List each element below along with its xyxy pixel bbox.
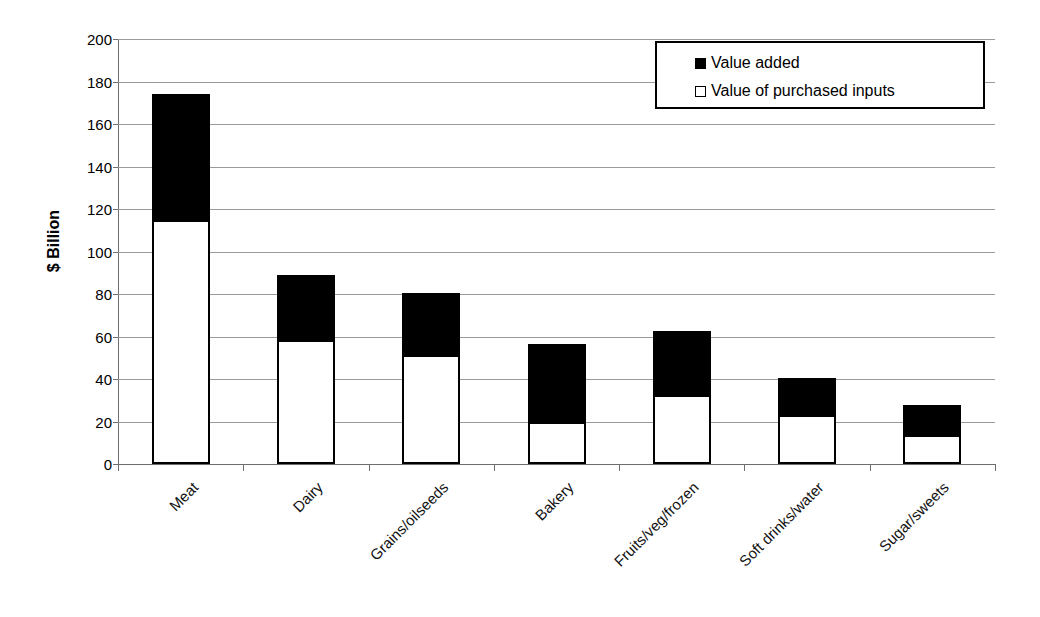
bar-segment-purchased-inputs[interactable] <box>277 340 335 464</box>
x-axis-category-label: Grains/oilseeds <box>366 478 451 563</box>
y-axis-tick-label: 60 <box>54 330 112 345</box>
bar-segment-value-added[interactable] <box>778 378 836 415</box>
x-axis-line <box>118 464 995 465</box>
gridline <box>118 124 995 125</box>
gridline <box>118 209 995 210</box>
x-axis-tickmark <box>243 464 244 471</box>
y-axis-tickmark <box>113 82 118 83</box>
y-axis-tickmark <box>113 252 118 253</box>
bar-segment-purchased-inputs[interactable] <box>778 415 836 464</box>
y-axis-tickmark <box>113 167 118 168</box>
y-axis-tick-label: 20 <box>54 415 112 430</box>
x-axis-category-label: Meat <box>165 478 201 514</box>
x-axis-tickmark <box>619 464 620 471</box>
x-axis-category-label: Sugar/sweets <box>876 478 952 554</box>
legend-item-value-added: Value added <box>695 50 983 76</box>
y-axis-tickmark <box>113 39 118 40</box>
x-axis-category-label: Soft drinks/water <box>736 478 827 569</box>
y-axis-tickmark <box>113 422 118 423</box>
x-axis-tickmark <box>494 464 495 471</box>
y-axis-tick-label: 120 <box>54 202 112 217</box>
gridline <box>118 294 995 295</box>
legend-label: Value added <box>711 55 800 71</box>
chart-legend: Value added Value of purchased inputs <box>655 41 985 109</box>
bar-segment-purchased-inputs[interactable] <box>653 395 711 464</box>
bar-meat[interactable] <box>152 94 210 464</box>
y-axis-tick-label: 100 <box>54 245 112 260</box>
bar-segment-value-added[interactable] <box>528 344 586 422</box>
legend-item-purchased-inputs: Value of purchased inputs <box>695 78 983 104</box>
y-axis-tick-label: 40 <box>54 372 112 387</box>
y-axis-tickmark <box>113 379 118 380</box>
gridline <box>118 167 995 168</box>
x-axis-tickmark <box>118 464 119 471</box>
y-axis-tick-label: 0 <box>54 457 112 472</box>
bar-segment-value-added[interactable] <box>277 275 335 340</box>
x-axis-tickmark <box>744 464 745 471</box>
gridline <box>118 252 995 253</box>
bar-segment-purchased-inputs[interactable] <box>903 435 961 464</box>
bar-dairy[interactable] <box>277 275 335 464</box>
hollow-square-icon <box>695 86 706 97</box>
y-axis-tick-label: 160 <box>54 117 112 132</box>
y-axis-tick-label: 140 <box>54 160 112 175</box>
x-axis-category-label: Dairy <box>289 478 326 515</box>
y-axis-tick-label: 180 <box>54 75 112 90</box>
bar-segment-value-added[interactable] <box>402 293 460 355</box>
x-axis-category-labels: MeatDairyGrains/oilseedsBakeryFruits/veg… <box>118 472 995 612</box>
bar-segment-value-added[interactable] <box>653 331 711 395</box>
y-axis-tick-label: 200 <box>54 32 112 47</box>
bar-segment-purchased-inputs[interactable] <box>402 355 460 464</box>
bar-segment-value-added[interactable] <box>152 94 210 219</box>
y-axis-tickmark <box>113 294 118 295</box>
y-axis-tick-labels: 200180160140120100806040200 <box>32 0 112 617</box>
x-axis-tickmark <box>995 464 996 471</box>
bar-grains-oilseeds[interactable] <box>402 293 460 464</box>
gridline <box>118 337 995 338</box>
y-axis-tickmark <box>113 209 118 210</box>
bar-segment-purchased-inputs[interactable] <box>528 422 586 465</box>
bar-bakery[interactable] <box>528 344 586 464</box>
y-axis-tickmark <box>113 337 118 338</box>
x-axis-tickmark <box>369 464 370 471</box>
x-axis-category-label: Fruits/veg/frozen <box>610 478 701 569</box>
bar-segment-value-added[interactable] <box>903 405 961 436</box>
bar-sugar-sweets[interactable] <box>903 405 961 465</box>
bar-soft-drinks-water[interactable] <box>778 378 836 464</box>
stacked-bar-chart: $ Billion 200180160140120100806040200 Me… <box>0 0 1040 617</box>
legend-label: Value of purchased inputs <box>711 83 895 99</box>
y-axis-tick-label: 80 <box>54 287 112 302</box>
y-axis-tickmark <box>113 124 118 125</box>
x-axis-category-label: Bakery <box>531 478 576 523</box>
filled-square-icon <box>695 58 706 69</box>
x-axis-tickmark <box>870 464 871 471</box>
bar-segment-purchased-inputs[interactable] <box>152 220 210 464</box>
gridline <box>118 39 995 40</box>
bar-fruits-veg-frozen[interactable] <box>653 331 711 464</box>
